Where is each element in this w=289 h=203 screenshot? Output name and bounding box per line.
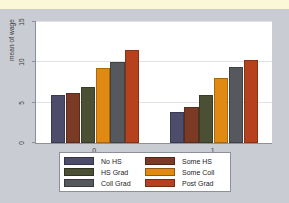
legend-entry: Some HS (145, 156, 226, 166)
legend-label: Post Grad (182, 180, 214, 187)
top-background-strip (0, 0, 289, 9)
legend-color-swatch (145, 168, 175, 176)
legend-label: No HS (101, 158, 122, 165)
bar (96, 68, 110, 143)
legend-color-swatch (145, 157, 175, 165)
legend-color-swatch (64, 157, 94, 165)
legend-entry: HS Grad (64, 167, 145, 177)
legend-label: Some Coll (182, 169, 214, 176)
legend-column-left: No HSHS GradColl Grad (64, 156, 145, 188)
gridline (36, 61, 272, 62)
bar (214, 78, 228, 143)
legend-color-swatch (145, 179, 175, 187)
y-axis-tick-mark (32, 142, 36, 143)
legend-column-right: Some HSSome CollPost Grad (145, 156, 226, 188)
bar (244, 60, 258, 143)
y-axis-tick-label: 5 (18, 95, 26, 111)
bar (51, 95, 65, 143)
bar (199, 95, 213, 143)
y-axis-title: mean of wage (8, 1, 15, 61)
legend-entry: No HS (64, 156, 145, 166)
bar (125, 50, 139, 143)
bar (110, 62, 124, 143)
legend-color-swatch (64, 179, 94, 187)
plot-area: 051015 (35, 22, 272, 144)
bar (184, 107, 198, 143)
bar (170, 112, 184, 143)
gridline (36, 21, 272, 22)
y-axis-tick-mark (32, 21, 36, 22)
y-axis-tick-label: 15 (18, 14, 26, 30)
legend-entry: Coll Grad (64, 178, 145, 188)
y-axis-tick-label: 0 (18, 135, 26, 151)
bar (66, 93, 80, 143)
chart-legend: No HSHS GradColl Grad Some HSSome CollPo… (59, 152, 231, 192)
bar (81, 87, 95, 143)
y-axis-tick-mark (32, 102, 36, 103)
chart-page: mean of wage 051015 01 No HSHS GradColl … (0, 0, 289, 203)
bar (229, 67, 243, 143)
legend-label: Coll Grad (101, 180, 131, 187)
y-axis-tick-mark (32, 61, 36, 62)
legend-entry: Post Grad (145, 178, 226, 188)
legend-entry: Some Coll (145, 167, 226, 177)
legend-label: HS Grad (101, 169, 128, 176)
legend-color-swatch (64, 168, 94, 176)
legend-label: Some HS (182, 158, 212, 165)
y-axis-tick-label: 10 (18, 54, 26, 70)
